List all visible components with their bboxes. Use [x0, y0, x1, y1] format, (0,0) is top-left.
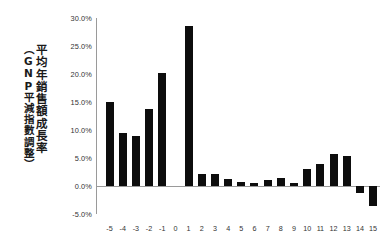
x-tick-label: 12: [330, 224, 338, 233]
bar: [277, 178, 285, 186]
bar: [211, 174, 219, 186]
bar: [330, 154, 338, 186]
x-tick-label: -5: [106, 224, 112, 233]
bar: [237, 182, 245, 186]
x-tick-label: 13: [343, 224, 351, 233]
bar: [198, 174, 206, 186]
y-tick-label: 25.0%: [71, 42, 92, 51]
y-tick-label: 20.0%: [71, 70, 92, 79]
bar-chart: 平均年銷售額成長率 （GNP平減指數調整） -5.0%0.0%5.0%10.0%…: [0, 0, 388, 250]
bar: [343, 156, 351, 186]
y-axis-tick-labels: -5.0%0.0%5.0%10.0%15.0%20.0%25.0%30.0%: [46, 0, 96, 250]
y-axis-title-line-2: （GNP平減指數調整）: [23, 44, 34, 170]
x-tick-label: 15: [369, 224, 377, 233]
x-tick-label: 9: [292, 224, 296, 233]
x-tick-label: 11: [317, 224, 324, 233]
x-tick-label: 6: [252, 224, 256, 233]
bar: [369, 186, 377, 206]
x-tick-label: 14: [356, 224, 364, 233]
x-tick-label: 7: [266, 224, 270, 233]
bar: [185, 26, 193, 186]
bar: [106, 102, 114, 186]
y-tick-label: 5.0%: [75, 154, 92, 163]
y-tick-label: 30.0%: [71, 14, 92, 23]
bar: [290, 183, 298, 186]
x-tick-label: -2: [146, 224, 152, 233]
bar: [145, 109, 153, 186]
x-tick-label: 1: [187, 224, 191, 233]
x-tick-label: 2: [200, 224, 204, 233]
x-tick-label: -4: [119, 224, 125, 233]
y-axis-title: 平均年銷售額成長率 （GNP平減指數調整）: [2, 44, 46, 224]
x-tick-label: 3: [213, 224, 217, 233]
bar: [264, 180, 272, 186]
x-tick-label: 8: [279, 224, 283, 233]
x-tick-label: 5: [239, 224, 243, 233]
y-axis-title-line-1: 平均年銷售額成長率: [34, 44, 46, 155]
bar: [316, 164, 324, 186]
y-tick-label: 10.0%: [71, 126, 92, 135]
bar: [250, 183, 258, 186]
x-tick-label: 4: [226, 224, 230, 233]
bar-series: [97, 18, 380, 214]
y-tick-label: 15.0%: [71, 98, 92, 107]
x-tick-label: 10: [303, 224, 311, 233]
bar: [224, 179, 232, 186]
x-axis-tick-labels: -5-4-3-2-10123456789101112131415: [97, 224, 381, 240]
y-tick-label: -5.0%: [72, 210, 92, 219]
bar: [303, 169, 311, 186]
bar: [158, 73, 166, 186]
x-tick-label: -3: [133, 224, 139, 233]
bar: [119, 133, 127, 186]
bar: [132, 136, 140, 186]
y-tick-label: 0.0%: [75, 182, 92, 191]
x-tick-label: -1: [159, 224, 165, 233]
plot-area: [96, 18, 380, 214]
x-tick-label: 0: [173, 224, 177, 233]
bar: [356, 186, 364, 193]
